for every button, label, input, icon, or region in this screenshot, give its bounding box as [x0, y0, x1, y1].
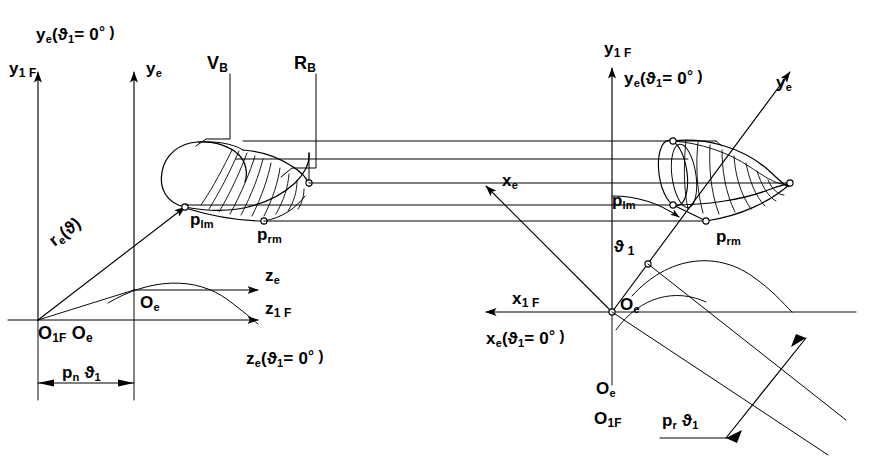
label-pn-theta1: pn ϑ1: [62, 364, 101, 383]
label-right-theta1: ϑ 1: [614, 238, 635, 257]
left-leader-RB: [281, 74, 316, 177]
label-pr-theta1: pr ϑ1: [662, 412, 698, 431]
label-right-plm: plm: [612, 192, 636, 211]
label-left-Oe: Oe: [140, 294, 160, 313]
diagram-canvas: ye(ϑ1= 0° ) y1 F ye VB RB plm prm re(ϑ) …: [0, 0, 869, 473]
label-left-ye-at-zero: ye(ϑ1= 0° ): [36, 24, 115, 45]
label-right-Oe-upper: Oe: [620, 296, 640, 315]
label-right-Oe-lower: Oe: [596, 380, 616, 399]
label-right-ye: ye: [776, 74, 792, 93]
label-left-ze-at-zero: ze(ϑ1= 0° ): [246, 348, 324, 369]
label-right-prm: prm: [716, 228, 741, 247]
label-left-plm: plm: [190, 211, 214, 230]
label-right-x1F: x1 F: [512, 290, 540, 309]
label-left-ye: ye: [146, 60, 162, 79]
label-RB: RB: [294, 54, 316, 74]
projection-lines: [186, 141, 790, 221]
label-right-O1F: O1F: [594, 410, 622, 429]
left-trajectory-arc: [108, 283, 258, 324]
label-left-z1F: z1 F: [265, 300, 292, 319]
left-blade-body: [161, 142, 312, 224]
label-left-prm: prm: [257, 226, 282, 245]
label-right-ye-at-zero: ye(ϑ1= 0° ): [624, 68, 703, 89]
label-left-ze: ze: [265, 267, 280, 286]
right-trajectory-arc: [632, 261, 792, 312]
label-right-xe-at-zero: xe(ϑ1= 0° ): [486, 328, 565, 349]
label-left-origin: O1F Oe: [38, 324, 93, 344]
right-blade-body: [655, 138, 794, 224]
left-leader-VB: [196, 74, 230, 146]
label-right-y1F: y1 F: [604, 40, 632, 59]
label-VB: VB: [207, 54, 228, 74]
label-right-xe: xe: [502, 172, 518, 191]
label-left-y1F: y1 F: [9, 60, 37, 79]
